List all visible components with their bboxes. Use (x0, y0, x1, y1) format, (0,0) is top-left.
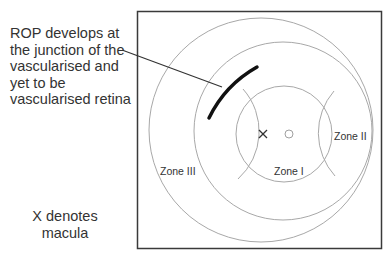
zone-2-label: Zone II (334, 130, 367, 142)
left-arc (238, 89, 259, 179)
optic-disc-icon (285, 130, 293, 138)
zone-1-label: Zone I (274, 165, 304, 177)
zone-3-label: Zone III (160, 165, 196, 177)
rop-lesion-arc (209, 67, 257, 118)
retina-zone-diagram: Zone I Zone II Zone III (0, 0, 387, 256)
macula-x-icon (259, 130, 267, 138)
